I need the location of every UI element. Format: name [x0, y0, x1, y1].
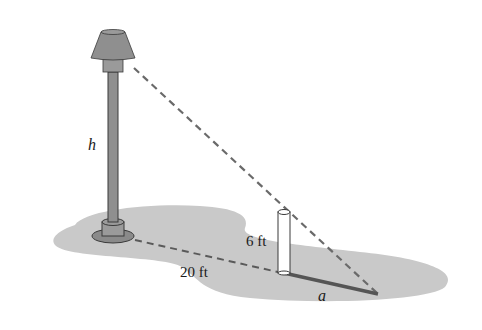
label-post-height: 6 ft: [246, 233, 267, 249]
label-lamp-height: h: [88, 136, 96, 153]
diagram-svg: h 6 ft 20 ft a: [0, 0, 482, 330]
label-shadow-length: a: [318, 287, 326, 304]
lamp-shade-top: [101, 30, 125, 35]
post: [278, 212, 290, 273]
post-bottom: [278, 271, 290, 275]
lamp-pole: [108, 72, 118, 222]
label-distance: 20 ft: [180, 264, 209, 280]
post-top: [278, 210, 290, 215]
lamp-neck: [103, 59, 123, 72]
lamp-shade: [91, 32, 135, 60]
diagram-canvas: h 6 ft 20 ft a: [0, 0, 482, 330]
